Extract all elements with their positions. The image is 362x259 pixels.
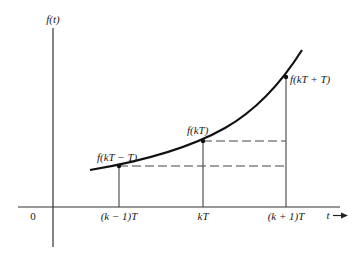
origin-label: 0 xyxy=(30,210,36,222)
sample-point-k-minus-1 xyxy=(117,164,121,168)
tick-label-k: kT xyxy=(198,210,210,222)
tick-label-k-minus-1: (k − 1)T xyxy=(101,210,139,223)
tick-label-k-plus-1: (k + 1)T xyxy=(268,210,306,223)
sample-point-k xyxy=(201,139,205,143)
point-label-k-minus-1: f(kT − T) xyxy=(97,151,138,164)
sampling-diagram: f(t) 0 t (k − 1)T kT (k + 1)T f(kT − T) … xyxy=(0,0,362,259)
sample-point-k-plus-1 xyxy=(284,75,288,79)
x-axis-arrow-icon xyxy=(333,213,348,219)
y-axis-label: f(t) xyxy=(46,13,60,26)
point-label-k-plus-1: f(kT + T) xyxy=(290,73,331,86)
x-axis-label: t xyxy=(326,209,330,221)
point-label-k: f(kT) xyxy=(187,124,209,137)
